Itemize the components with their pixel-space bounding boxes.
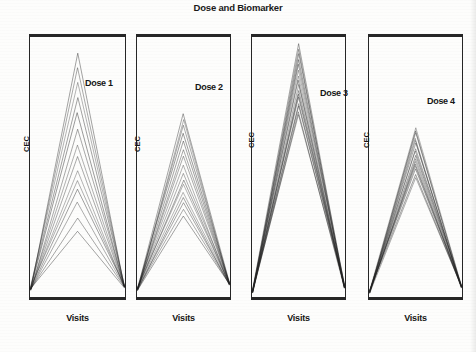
- subject-profile-line: [370, 149, 462, 294]
- figure-title: Dose and Biomarker: [0, 2, 476, 13]
- subject-profile-line: [137, 150, 229, 291]
- subject-profile-line: [31, 129, 125, 290]
- subject-profile-line: [370, 161, 462, 292]
- subject-profile-line: [253, 94, 345, 292]
- panel-dose-2: [136, 34, 231, 300]
- subject-profile-line: [370, 164, 461, 291]
- subject-profile-line: [137, 173, 229, 288]
- subject-profile-line: [369, 128, 461, 292]
- subject-profile-line: [369, 131, 461, 293]
- subject-profile-line: [252, 70, 345, 293]
- figure-canvas: Dose and Biomarker Dose 1 CEC Visits Dos…: [0, 0, 476, 352]
- dose-label-4: Dose 4: [427, 96, 455, 106]
- dose-label-1: Dose 1: [85, 78, 113, 88]
- subject-profile-line: [137, 156, 230, 289]
- y-axis-label-3: CEC: [247, 132, 256, 148]
- subject-profile-line: [31, 157, 125, 290]
- subject-profile-line: [252, 106, 344, 293]
- dose-label-3: Dose 3: [320, 88, 348, 98]
- x-axis-label-4: Visits: [368, 313, 463, 323]
- subject-profile-line: [253, 112, 345, 293]
- y-axis-label-1: CEC: [22, 136, 31, 152]
- panel-lines: [251, 34, 346, 300]
- subject-profile-line: [370, 169, 462, 291]
- subject-profile-line: [137, 203, 229, 289]
- subject-profile-line: [253, 104, 345, 292]
- dose-label-2: Dose 2: [195, 82, 223, 92]
- x-axis-label-1: Visits: [29, 313, 126, 323]
- panel-lines: [368, 34, 463, 300]
- panel-lines: [136, 34, 231, 300]
- subject-profile-line: [369, 143, 461, 293]
- subject-profile-line: [370, 159, 462, 293]
- subject-profile-line: [369, 175, 461, 292]
- panel-lines: [29, 34, 126, 300]
- page-edge-shadow: [470, 0, 476, 352]
- subject-profile-line: [370, 166, 462, 291]
- x-axis-label-3: Visits: [251, 313, 346, 323]
- panel-dose-1: [29, 34, 126, 300]
- panel-dose-3: [251, 34, 346, 300]
- panel-dose-4: [368, 34, 463, 300]
- subject-profile-line: [369, 155, 461, 292]
- y-axis-label-2: CEC: [133, 136, 142, 152]
- subject-profile-line: [253, 76, 345, 292]
- x-axis-label-2: Visits: [136, 313, 231, 323]
- y-axis-label-4: CEC: [362, 132, 371, 148]
- subject-profile-line: [137, 141, 229, 290]
- subject-profile-line: [252, 115, 344, 292]
- subject-profile-line: [252, 97, 344, 292]
- subject-profile-line: [137, 165, 229, 289]
- subject-profile-line: [370, 140, 462, 293]
- subject-profile-line: [253, 90, 345, 291]
- subject-profile-line: [370, 178, 462, 294]
- subject-profile-line: [369, 151, 462, 292]
- subject-profile-line: [253, 84, 345, 291]
- subject-profile-line: [369, 133, 462, 293]
- subject-profile-line: [30, 113, 124, 290]
